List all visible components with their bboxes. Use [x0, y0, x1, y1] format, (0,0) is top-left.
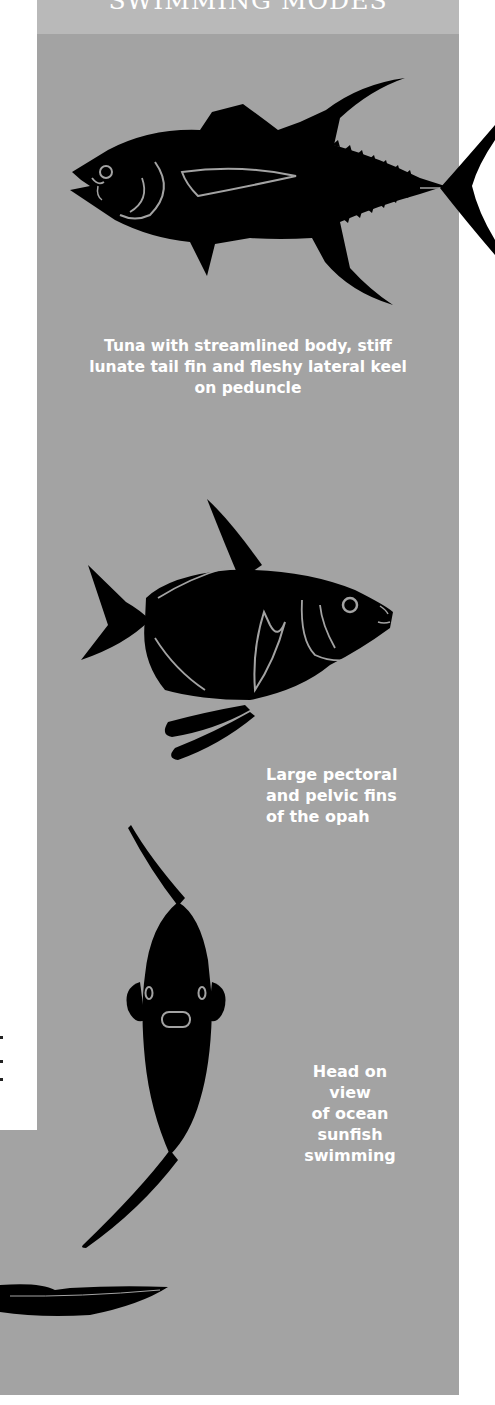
sunfish-head-on-icon: [82, 825, 226, 1248]
partial-fish-silhouette-icon: [0, 1284, 168, 1316]
caption-line: of ocean: [290, 1103, 410, 1124]
sunfish-caption: Head on view of ocean sunfish swimming: [290, 1061, 410, 1166]
opah-caption: Large pectoral and pelvic fins of the op…: [266, 764, 456, 827]
tuna-silhouette-icon: [70, 78, 495, 305]
caption-line: swimming: [290, 1145, 410, 1166]
illustrations: [0, 0, 495, 1405]
caption-line: on peduncle: [37, 378, 459, 399]
caption-line: of the opah: [266, 806, 456, 827]
caption-line: and pelvic fins: [266, 785, 456, 806]
caption-line: Tuna with streamlined body, stiff: [37, 336, 459, 357]
tuna-caption: Tuna with streamlined body, stiff lunate…: [37, 336, 459, 399]
caption-line: Large pectoral: [266, 764, 456, 785]
caption-line: lunate tail fin and fleshy lateral keel: [37, 357, 459, 378]
caption-line: Head on view: [290, 1061, 410, 1103]
caption-line: sunfish: [290, 1124, 410, 1145]
opah-silhouette-icon: [81, 499, 393, 760]
